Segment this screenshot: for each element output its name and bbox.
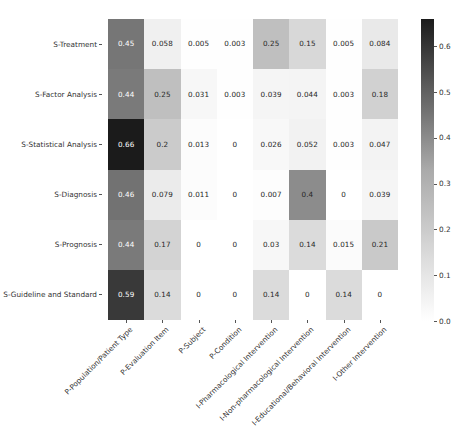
- heatmap-cell: 0.084: [362, 19, 398, 69]
- colorbar: 0.00.10.20.30.40.50.6: [421, 19, 475, 321]
- heatmap-cell: 0.46: [108, 170, 144, 220]
- x-tick-label: P-Condition: [207, 325, 243, 361]
- colorbar-tick-mark: [434, 321, 437, 322]
- heatmap-cell: 0.015: [326, 220, 362, 270]
- heatmap-cell: 0.18: [362, 69, 398, 119]
- heatmap-cell-value: 0.039: [261, 91, 282, 98]
- heatmap-cell: 0.45: [108, 19, 144, 69]
- heatmap-cell-value: 0.058: [152, 40, 173, 47]
- heatmap-cell-value: 0.079: [152, 191, 173, 198]
- colorbar-gradient: [421, 19, 434, 321]
- colorbar-tick-mark: [434, 46, 437, 47]
- heatmap-cell-value: 0.17: [154, 241, 170, 248]
- heatmap-cell: 0: [217, 170, 253, 220]
- heatmap-figure: S-TreatmentS-Factor AnalysisS-Statistica…: [0, 0, 475, 441]
- heatmap-cell: 0.14: [144, 270, 180, 320]
- x-tick-mark: [162, 320, 163, 323]
- heatmap-cell: 0.59: [108, 270, 144, 320]
- heatmap-cell: 0.25: [144, 69, 180, 119]
- y-tick-label: S-Diagnosis: [54, 190, 97, 199]
- x-tick-label: P-Subject: [176, 325, 207, 356]
- heatmap-cell: 0.044: [289, 69, 325, 119]
- y-tick-label: S-Treatment: [53, 40, 97, 49]
- y-tick-label: S-Factor Analysis: [35, 90, 97, 99]
- x-tick-label: P-Population/Patient Type: [63, 325, 135, 397]
- heatmap-cell-value: 0.25: [154, 91, 170, 98]
- heatmap-cell: 0.2: [144, 119, 180, 169]
- heatmap-cell-value: 0: [378, 291, 383, 298]
- heatmap-cell: 0.026: [253, 119, 289, 169]
- heatmap-cell: 0.15: [289, 19, 325, 69]
- colorbar-tick-mark: [434, 92, 437, 93]
- heatmap-cell: 0.005: [181, 19, 217, 69]
- heatmap-cell-value: 0.44: [118, 241, 134, 248]
- heatmap-cell: 0.66: [108, 119, 144, 169]
- heatmap-cell: 0.011: [181, 170, 217, 220]
- heatmap-cell: 0.003: [326, 69, 362, 119]
- heatmap-cell-value: 0.005: [188, 40, 209, 47]
- y-tick: S-Treatment: [0, 19, 103, 69]
- heatmap-cell-value: 0.003: [333, 141, 354, 148]
- heatmap-cell: 0.21: [362, 220, 398, 270]
- heatmap-cell-value: 0.047: [369, 141, 390, 148]
- heatmap-cell: 0.25: [253, 19, 289, 69]
- heatmap-cell: 0.047: [362, 119, 398, 169]
- colorbar-tick-label: 0.1: [439, 271, 451, 280]
- heatmap-cell-value: 0.003: [224, 40, 245, 47]
- heatmap-cell: 0.039: [362, 170, 398, 220]
- heatmap-cell: 0: [217, 270, 253, 320]
- heatmap-plot-area: 0.450.0580.0050.0030.250.150.0050.0840.4…: [108, 19, 398, 320]
- colorbar-tick-label: 0.3: [439, 179, 451, 188]
- y-tick-label: S-Statistical Analysis: [21, 140, 97, 149]
- colorbar-tick-label: 0.6: [439, 42, 451, 51]
- heatmap-cell-value: 0.003: [333, 91, 354, 98]
- heatmap-cell: 0.079: [144, 170, 180, 220]
- heatmap-cell-value: 0.14: [263, 291, 279, 298]
- heatmap-cell: 0.14: [326, 270, 362, 320]
- heatmap-cell-grid: 0.450.0580.0050.0030.250.150.0050.0840.4…: [108, 19, 398, 320]
- heatmap-cell-value: 0.007: [261, 191, 282, 198]
- x-tick-mark: [235, 320, 236, 323]
- y-tick-mark: [99, 94, 102, 95]
- y-tick-mark: [99, 144, 102, 145]
- heatmap-cell-value: 0: [233, 141, 238, 148]
- heatmap-cell-value: 0: [233, 241, 238, 248]
- heatmap-cell-value: 0: [233, 191, 238, 198]
- heatmap-cell: 0: [217, 220, 253, 270]
- y-tick-mark: [99, 294, 102, 295]
- heatmap-cell-value: 0.013: [188, 141, 209, 148]
- colorbar-tick-mark: [434, 138, 437, 139]
- heatmap-cell-value: 0.44: [118, 91, 134, 98]
- heatmap-cell: 0: [289, 270, 325, 320]
- heatmap-cell-value: 0.052: [297, 141, 318, 148]
- heatmap-cell-value: 0.031: [188, 91, 209, 98]
- heatmap-cell-value: 0.039: [369, 191, 390, 198]
- y-tick: S-Statistical Analysis: [0, 119, 103, 169]
- heatmap-cell-value: 0: [233, 291, 238, 298]
- heatmap-cell: 0: [181, 270, 217, 320]
- heatmap-cell: 0.003: [326, 119, 362, 169]
- heatmap-cell-value: 0.15: [299, 40, 315, 47]
- heatmap-cell: 0.03: [253, 220, 289, 270]
- heatmap-cell-value: 0.46: [118, 191, 134, 198]
- heatmap-cell-value: 0: [305, 291, 310, 298]
- heatmap-cell: 0: [362, 270, 398, 320]
- heatmap-cell-value: 0.011: [188, 191, 209, 198]
- heatmap-cell: 0.031: [181, 69, 217, 119]
- heatmap-cell: 0.005: [326, 19, 362, 69]
- heatmap-cell: 0.013: [181, 119, 217, 169]
- heatmap-cell-value: 0.21: [372, 241, 388, 248]
- y-tick-label: S-Prognosis: [55, 240, 97, 249]
- colorbar-tick-label: 0.4: [439, 133, 451, 142]
- x-tick-mark: [380, 320, 381, 323]
- heatmap-cell: 0.003: [217, 19, 253, 69]
- heatmap-cell-value: 0.14: [335, 291, 351, 298]
- colorbar-tick-mark: [434, 275, 437, 276]
- heatmap-cell-value: 0.4: [302, 191, 314, 198]
- y-tick: S-Diagnosis: [0, 170, 103, 220]
- y-tick-mark: [99, 44, 102, 45]
- colorbar-tick-label: 0.5: [439, 88, 451, 97]
- heatmap-cell-value: 0.66: [118, 141, 134, 148]
- heatmap-cell-value: 0.044: [297, 91, 318, 98]
- heatmap-cell: 0.039: [253, 69, 289, 119]
